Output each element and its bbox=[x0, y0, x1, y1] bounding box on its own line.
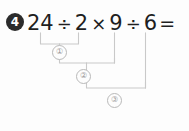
equals-icon: = bbox=[157, 12, 175, 34]
step-order-marker-1: ① bbox=[52, 45, 67, 60]
operand-24: 24 bbox=[27, 11, 54, 35]
problem-number-badge: 4 bbox=[6, 13, 24, 31]
operand-6: 6 bbox=[144, 11, 157, 35]
operand-9: 9 bbox=[109, 11, 122, 35]
divide-icon-2: ÷ bbox=[123, 13, 144, 34]
divide-icon-1: ÷ bbox=[54, 13, 75, 34]
step-order-marker-3: ③ bbox=[107, 93, 122, 108]
math-expression: 24 ÷ 2 × 9 ÷ 6 = bbox=[27, 11, 175, 35]
bracket-step-3 bbox=[87, 82, 146, 88]
multiply-icon: × bbox=[88, 13, 109, 34]
bracket-step-1 bbox=[41, 40, 79, 44]
step-order-marker-2: ② bbox=[76, 69, 91, 84]
operand-2: 2 bbox=[75, 11, 88, 35]
worksheet-problem: 4 24 ÷ 2 × 9 ÷ 6 = ① ② ③ bbox=[0, 0, 189, 131]
bracket-step-2 bbox=[60, 58, 115, 63]
